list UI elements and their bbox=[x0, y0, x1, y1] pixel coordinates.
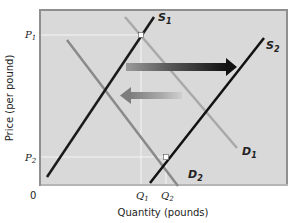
y-axis-title: Price (per pound) bbox=[4, 55, 15, 142]
tick-p2: P2 bbox=[24, 152, 37, 165]
equilibrium-point-2 bbox=[164, 155, 169, 160]
origin-label: 0 bbox=[30, 190, 36, 201]
plot-shadow bbox=[41, 184, 288, 186]
x-axis-title: Quantity (pounds) bbox=[118, 207, 209, 218]
supply-demand-chart: S1 S2 D1 D2 P1 P2 Q1 Q2 0 Quantity (poun… bbox=[0, 0, 292, 223]
tick-q1: Q1 bbox=[136, 190, 149, 203]
tick-q2: Q2 bbox=[161, 190, 174, 203]
equilibrium-point-1 bbox=[139, 33, 144, 38]
tick-p1: P1 bbox=[24, 29, 36, 42]
